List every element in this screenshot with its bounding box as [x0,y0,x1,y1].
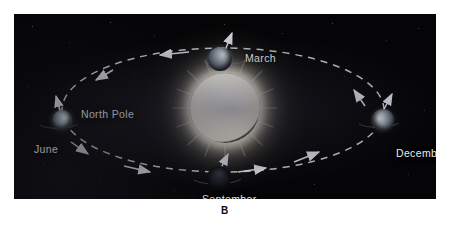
earth-september-position [207,166,231,190]
label-north-pole: North Pole [81,108,134,120]
earth-june-position [52,110,72,130]
figure-panel-b: March North Pole June December September… [0,0,449,230]
label-june: June [34,143,58,155]
label-december: December [396,147,436,159]
earth-march-position [208,47,232,71]
figure-caption: B [0,205,449,216]
earth-december-position [372,109,394,131]
label-september: September [202,193,257,199]
label-march: March [245,52,276,64]
sun-rays [173,56,277,160]
space-background: March North Pole June December September [14,14,436,199]
